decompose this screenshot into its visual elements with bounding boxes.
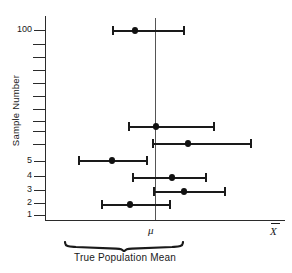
y-axis-tick bbox=[33, 57, 45, 58]
confidence-interval-bar bbox=[153, 186, 226, 197]
y-axis-tick-label: 2 bbox=[6, 198, 32, 207]
y-axis-tick bbox=[33, 44, 45, 45]
sample-mean-marker bbox=[153, 123, 159, 129]
y-axis-tick-label: 3 bbox=[6, 185, 32, 194]
y-axis-title: Sample Number bbox=[10, 66, 21, 156]
interval-cap-upper bbox=[146, 156, 148, 165]
y-axis-tick bbox=[33, 144, 45, 145]
x-bar-axis-label: X bbox=[270, 223, 280, 237]
interval-cap-lower bbox=[132, 173, 134, 182]
confidence-interval-bar bbox=[78, 155, 148, 166]
mu-axis-label: μ bbox=[148, 224, 154, 236]
interval-cap-lower bbox=[128, 122, 130, 131]
brace-caption: True Population Mean bbox=[40, 252, 210, 263]
y-axis-tick bbox=[33, 70, 45, 71]
overbar-glyph bbox=[271, 223, 280, 224]
y-axis-tick bbox=[34, 161, 45, 162]
brace-icon bbox=[64, 238, 184, 249]
interval-cap-lower bbox=[152, 139, 154, 148]
y-axis-tick-label: 100 bbox=[6, 25, 32, 34]
sample-mean-marker bbox=[127, 201, 133, 207]
confidence-interval-bar bbox=[152, 138, 252, 149]
y-axis-tick bbox=[34, 215, 45, 216]
confidence-interval-bar bbox=[112, 25, 185, 36]
y-axis-line bbox=[45, 16, 46, 221]
y-axis-tick-label: 5 bbox=[6, 156, 32, 165]
interval-cap-upper bbox=[213, 122, 215, 131]
sample-mean-marker bbox=[109, 157, 115, 163]
interval-line bbox=[101, 204, 171, 206]
interval-line bbox=[153, 191, 226, 193]
interval-cap-upper bbox=[250, 139, 252, 148]
interval-line bbox=[152, 143, 252, 145]
y-axis-tick bbox=[34, 203, 45, 204]
y-axis-tick bbox=[33, 83, 45, 84]
y-axis-tick bbox=[34, 176, 45, 177]
y-axis-tick bbox=[34, 190, 45, 191]
sample-mean-marker bbox=[132, 27, 138, 33]
interval-cap-upper bbox=[224, 187, 226, 196]
interval-line bbox=[112, 30, 185, 32]
y-axis-tick bbox=[33, 96, 45, 97]
y-axis-tick-label: 4 bbox=[6, 171, 32, 180]
sample-mean-marker bbox=[169, 174, 175, 180]
interval-cap-upper bbox=[183, 26, 185, 35]
y-axis-tick bbox=[34, 30, 45, 31]
interval-cap-lower bbox=[78, 156, 80, 165]
confidence-interval-bar bbox=[128, 121, 215, 132]
interval-cap-lower bbox=[101, 200, 103, 209]
y-axis-tick bbox=[33, 109, 45, 110]
interval-cap-lower bbox=[112, 26, 114, 35]
sample-mean-marker bbox=[185, 140, 191, 146]
confidence-interval-bar bbox=[132, 172, 207, 183]
confidence-interval-bar bbox=[101, 199, 171, 210]
y-axis-tick bbox=[33, 121, 45, 122]
x-axis-line bbox=[45, 220, 285, 221]
y-axis-tick-label: 1 bbox=[6, 210, 32, 219]
y-axis-tick bbox=[33, 131, 45, 132]
interval-cap-lower bbox=[153, 187, 155, 196]
sample-mean-marker bbox=[181, 188, 187, 194]
interval-cap-upper bbox=[169, 200, 171, 209]
interval-cap-upper bbox=[205, 173, 207, 182]
interval-line bbox=[128, 126, 215, 128]
figure-canvas: Sample Number 10054321 μ X True Populati… bbox=[0, 0, 292, 273]
x-bar-letter: X bbox=[270, 225, 277, 237]
